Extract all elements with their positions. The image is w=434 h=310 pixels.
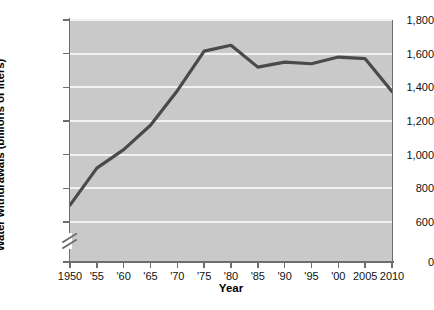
y-tick-1800 xyxy=(63,19,69,21)
x-tick-1975 xyxy=(203,262,205,268)
y-tick-label-600: 600 xyxy=(377,216,434,228)
x-tick-label-2010: 2010 xyxy=(380,270,404,282)
y-tick-label-1400: 1,400 xyxy=(377,81,434,93)
y-axis-line xyxy=(69,18,71,262)
x-tick-label-1960: '60 xyxy=(116,270,130,282)
line-series-water-withdrawals xyxy=(70,20,392,262)
y-tick-label-1600: 1,600 xyxy=(377,48,434,60)
x-tick-1970 xyxy=(177,262,179,268)
x-axis-title: Year xyxy=(70,282,392,294)
x-tick-1995 xyxy=(311,262,313,268)
x-tick-label-2005: 2005 xyxy=(353,270,377,282)
x-tick-label-1950: 1950 xyxy=(58,270,82,282)
x-tick-label-1985: '85 xyxy=(251,270,265,282)
y-tick-1000 xyxy=(63,154,69,156)
y-axis-title: Water withdrawals (billions of liters) xyxy=(0,0,38,310)
x-tick-1990 xyxy=(284,262,286,268)
x-tick-label-1980: '80 xyxy=(224,270,238,282)
y-tick-1200 xyxy=(63,120,69,122)
y-tick-label-800: 800 xyxy=(377,182,434,194)
y-tick-600 xyxy=(63,221,69,223)
x-tick-1950 xyxy=(69,262,71,268)
x-tick-label-1975: '75 xyxy=(197,270,211,282)
x-tick-2005 xyxy=(364,262,366,268)
x-tick-label-1990: '90 xyxy=(277,270,291,282)
x-tick-1985 xyxy=(257,262,259,268)
x-tick-label-1970: '70 xyxy=(170,270,184,282)
x-tick-2000 xyxy=(338,262,340,268)
x-tick-1980 xyxy=(230,262,232,268)
y-tick-1400 xyxy=(63,87,69,89)
x-tick-1955 xyxy=(96,262,98,268)
x-tick-1965 xyxy=(150,262,152,268)
x-tick-2010 xyxy=(391,262,393,268)
y-tick-800 xyxy=(63,188,69,190)
y-tick-1600 xyxy=(63,53,69,55)
x-tick-label-1965: '65 xyxy=(143,270,157,282)
x-tick-label-1955: '55 xyxy=(90,270,104,282)
y-tick-label-1200: 1,200 xyxy=(377,115,434,127)
y-tick-label-0: 0 xyxy=(377,256,434,268)
y-tick-0 xyxy=(63,261,69,263)
plot-area xyxy=(70,20,393,262)
x-tick-1960 xyxy=(123,262,125,268)
x-tick-label-1995: '95 xyxy=(304,270,318,282)
y-axis-break-icon xyxy=(61,232,78,250)
chart-figure: Water withdrawals (billions of liters) 1… xyxy=(0,0,434,310)
x-tick-label-2000: '00 xyxy=(331,270,345,282)
y-tick-label-1000: 1,000 xyxy=(377,149,434,161)
y-tick-label-1800: 1,800 xyxy=(377,14,434,26)
